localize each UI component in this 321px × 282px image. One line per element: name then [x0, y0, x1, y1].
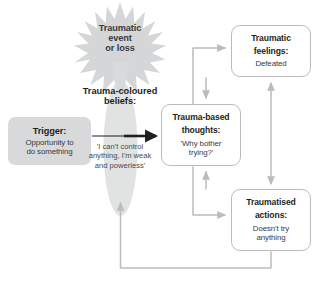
- actions-title-line-2: actions:: [255, 211, 287, 221]
- actions-title-line-1: Traumatised: [246, 198, 296, 208]
- beliefs-body-line-1: 'I can't control: [72, 142, 168, 151]
- connector-thoughts-to-actions: [193, 167, 225, 215]
- thoughts-body-line-1: 'Why bother: [181, 139, 222, 148]
- feelings-title-line-2: feelings:: [254, 47, 288, 57]
- trigger-title: Trigger:: [33, 126, 66, 136]
- traumatic-event-line-2: event: [108, 33, 132, 43]
- actions-body-line-2: anything: [256, 233, 285, 242]
- thoughts-title-line-2: thoughts:: [182, 126, 221, 136]
- beliefs-heading-line-1: Trauma-coloured: [64, 86, 176, 96]
- beliefs-body-line-2: anything, I'm weak: [72, 151, 168, 160]
- feelings-title-line-1: Traumatic: [251, 34, 291, 44]
- node-traumatic-event: Traumatic event or loss: [75, 2, 165, 74]
- node-traumatised-actions: Traumatised actions: Doesn't try anythin…: [231, 189, 311, 251]
- trauma-cycle-diagram: Traumatic event or loss Trauma-coloured …: [0, 0, 321, 282]
- trigger-body-line-2: do something: [26, 147, 72, 156]
- beliefs-body: 'I can't control anything, I'm weak and …: [72, 142, 168, 170]
- thoughts-title-line-1: Trauma-based: [172, 113, 229, 123]
- traumatic-event-line-3: or loss: [105, 43, 134, 53]
- trigger-body-line-1: Opportunity to: [25, 138, 73, 147]
- actions-body-line-1: Doesn't try: [253, 224, 289, 233]
- node-traumatic-feelings: Traumatic feelings: Defeated: [231, 25, 311, 77]
- beliefs-heading: Trauma-coloured beliefs:: [64, 86, 176, 107]
- connector-thoughts-to-feelings: [193, 48, 225, 104]
- feelings-body-line-1: Defeated: [255, 59, 286, 68]
- traumatic-event-line-1: Traumatic: [99, 23, 142, 33]
- beliefs-heading-line-2: beliefs:: [64, 96, 176, 106]
- beliefs-body-line-3: and powerless': [72, 161, 168, 170]
- thoughts-body-line-2: trying?': [189, 148, 213, 157]
- node-trauma-based-thoughts: Trauma-based thoughts: 'Why bother tryin…: [161, 104, 241, 166]
